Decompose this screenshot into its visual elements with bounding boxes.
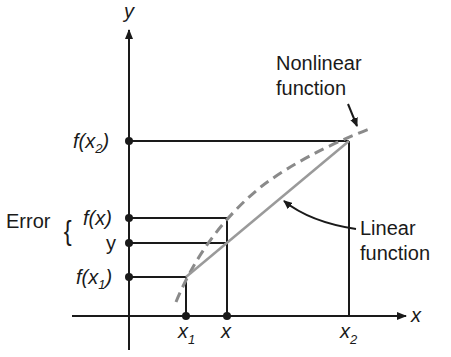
- nonlinear-pointer-arrow: [348, 104, 357, 126]
- fx2-label: f(x2): [73, 130, 109, 156]
- fx1-dot: [125, 273, 133, 281]
- x2-label: x2: [339, 320, 358, 347]
- fx-label: f(x): [83, 207, 112, 229]
- y-value-label: y: [106, 232, 116, 254]
- x-label: x: [220, 320, 232, 342]
- x-dot: [223, 312, 231, 320]
- linear-interpolation-diagram: y x f(x2) f(x) y f(x1) Error { x1 x x2 N…: [0, 0, 451, 357]
- nonlinear-function-curve: [176, 129, 369, 302]
- linear-label-line1: Linear: [360, 217, 416, 239]
- linear-function-line: [186, 141, 349, 277]
- fx2-dot: [125, 137, 133, 145]
- fx1-label: f(x1): [76, 266, 112, 292]
- y-axis-label: y: [122, 0, 135, 22]
- x1-label: x1: [177, 320, 195, 347]
- y-dot: [125, 239, 133, 247]
- x-axis-label: x: [410, 304, 422, 326]
- nonlinear-label-line2: function: [276, 77, 346, 99]
- error-label: Error: [6, 210, 51, 232]
- linear-pointer-arrow: [284, 201, 356, 229]
- x1-dot: [182, 312, 190, 320]
- fx-dot: [125, 214, 133, 222]
- nonlinear-label-line1: Nonlinear: [276, 52, 362, 74]
- error-brace: {: [64, 214, 72, 246]
- linear-label-line2: function: [360, 242, 430, 264]
